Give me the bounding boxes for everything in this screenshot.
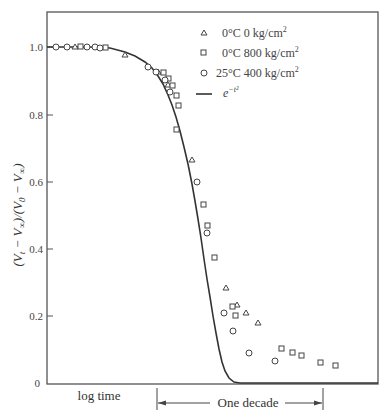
y-tick-0.6: 0.6 bbox=[29, 176, 43, 188]
y-tick-0.4: 0.4 bbox=[29, 243, 43, 255]
decade-annotation: One decade bbox=[157, 388, 323, 410]
decade-label: One decade bbox=[218, 395, 279, 410]
y-tick-1.0: 1.0 bbox=[29, 41, 43, 53]
legend-item-square: 0°C 800 kg/cm2 bbox=[201, 45, 299, 60]
chart-canvas: 1.0 0.8 0.6 0.4 0.2 0 (Vt − V∞)/(V0 − V∞… bbox=[0, 0, 387, 418]
square-marker-icon bbox=[201, 50, 206, 55]
y-tick-0.8: 0.8 bbox=[29, 109, 43, 121]
fit-curve bbox=[47, 47, 378, 383]
y-axis: 1.0 0.8 0.6 0.4 0.2 0 bbox=[29, 41, 53, 389]
svg-text:0°C 800 kg/cm2: 0°C 800 kg/cm2 bbox=[222, 45, 299, 60]
legend-item-triangle: 0°C 0 kg/cm2 bbox=[201, 25, 287, 40]
x-axis-label: log time bbox=[78, 388, 121, 403]
legend-item-curve: e−t² bbox=[196, 85, 239, 100]
y-axis-label: (Vt − V∞)/(V0 − V∞) bbox=[10, 163, 27, 266]
series-squares bbox=[78, 44, 338, 368]
svg-text:e−t²: e−t² bbox=[223, 85, 239, 100]
svg-text:0°C 0 kg/cm2: 0°C 0 kg/cm2 bbox=[222, 25, 287, 40]
series-circles bbox=[53, 44, 278, 364]
y-tick-0: 0 bbox=[35, 377, 41, 389]
svg-text:25°C 400 kg/cm2: 25°C 400 kg/cm2 bbox=[216, 65, 299, 80]
triangle-marker-icon bbox=[201, 30, 207, 35]
y-tick-0.2: 0.2 bbox=[29, 310, 43, 322]
legend: 0°C 0 kg/cm2 0°C 800 kg/cm2 25°C 400 kg/… bbox=[196, 25, 299, 100]
svg-text:(Vt − V∞)/(V0 − V∞): (Vt − V∞)/(V0 − V∞) bbox=[10, 163, 27, 266]
legend-item-circle: 25°C 400 kg/cm2 bbox=[201, 65, 299, 80]
circle-marker-icon bbox=[201, 70, 207, 76]
plot-frame bbox=[47, 12, 378, 384]
